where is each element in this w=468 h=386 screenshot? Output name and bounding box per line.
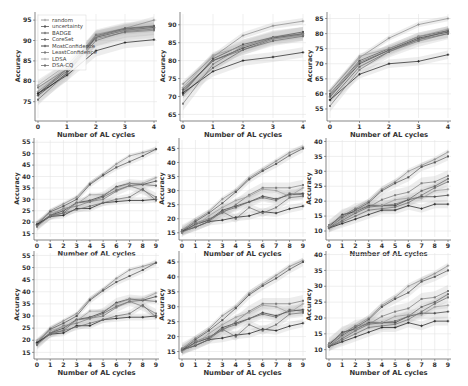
x-tick-label: 3	[220, 361, 224, 368]
y-tick-label: 30	[167, 303, 176, 310]
x-tick-label: 4	[234, 361, 239, 368]
chart-panel-row2-col2: 152025303540450123456789Number of AL cyc…	[158, 138, 307, 258]
x-tick-label: 5	[247, 361, 251, 368]
chart-panel-row3-col2: 152025303540450123456789Number of AL cyc…	[158, 251, 307, 377]
x-tick-label: 0	[181, 123, 186, 130]
y-tick-label: 40	[314, 138, 323, 145]
y-tick-label: 35	[167, 173, 176, 180]
x-axis-label: Number of AL cycles	[350, 131, 428, 139]
y-tick-label: 15	[22, 349, 31, 356]
x-tick-label: 6	[114, 361, 118, 368]
y-axis-label: Accuracy	[306, 49, 314, 82]
y-tick-label: 70	[315, 60, 324, 67]
y-tick-label: 30	[22, 312, 31, 319]
y-tick-label: 25	[314, 298, 323, 305]
x-tick-label: 7	[127, 242, 131, 249]
x-tick-label: 8	[287, 361, 291, 368]
y-tick-label: 40	[167, 273, 176, 280]
x-tick-label: 0	[328, 123, 333, 130]
x-tick-label: 0	[35, 361, 40, 368]
x-tick-label: 1	[340, 361, 344, 368]
y-tick-label: 15	[314, 330, 323, 337]
y-tick-label: 10	[314, 227, 323, 234]
x-tick-label: 4	[152, 123, 157, 130]
x-tick-label: 1	[193, 361, 197, 368]
y-axis-label: Accuracy	[158, 287, 166, 320]
x-tick-label: 2	[207, 242, 211, 249]
x-tick-label: 1	[193, 242, 197, 249]
x-tick-label: 9	[154, 242, 158, 249]
y-tick-label: 20	[167, 215, 176, 222]
y-tick-label: 95	[23, 16, 32, 23]
legend-entry: LeastConfidence	[52, 49, 97, 55]
y-tick-label: 30	[314, 168, 323, 175]
x-tick-label: 9	[301, 361, 305, 368]
y-tick-label: 30	[22, 196, 31, 203]
y-tick-label: 45	[167, 258, 176, 265]
x-tick-label: 3	[123, 123, 127, 130]
x-axis-label: Number of AL cycles	[57, 250, 135, 258]
x-tick-label: 6	[261, 242, 265, 249]
chart-panel-row2-col3: 101520253035400123456789Number of AL cyc…	[305, 138, 452, 258]
y-tick-label: 75	[23, 98, 32, 105]
y-tick-label: 80	[315, 30, 324, 37]
y-tick-label: 45	[167, 145, 176, 152]
y-tick-label: 40	[22, 288, 31, 295]
x-tick-label: 7	[419, 361, 423, 368]
x-tick-label: 5	[101, 242, 105, 249]
y-axis-label: Accuracy	[305, 287, 313, 320]
x-tick-label: 3	[416, 123, 420, 130]
y-tick-label: 85	[23, 57, 32, 64]
x-tick-label: 7	[274, 361, 278, 368]
x-tick-label: 8	[433, 361, 437, 368]
y-tick-label: 65	[168, 111, 177, 118]
legend-entry: LDSA	[52, 56, 67, 62]
x-axis-label: Number of AL cycles	[57, 131, 135, 139]
x-tick-label: 0	[180, 242, 185, 249]
y-tick-label: 20	[167, 333, 176, 340]
x-tick-label: 1	[48, 361, 52, 368]
x-tick-label: 8	[287, 242, 291, 249]
y-tick-label: 80	[23, 77, 32, 84]
x-tick-label: 7	[419, 242, 423, 249]
x-tick-label: 2	[207, 361, 211, 368]
x-tick-label: 0	[36, 123, 41, 130]
x-tick-label: 6	[406, 242, 410, 249]
y-tick-label: 90	[168, 21, 177, 28]
x-tick-label: 1	[340, 242, 344, 249]
x-tick-label: 1	[48, 242, 52, 249]
x-tick-label: 0	[327, 242, 332, 249]
x-axis-label: Number of AL cycles	[203, 250, 281, 258]
y-tick-label: 15	[167, 348, 176, 355]
x-tick-label: 8	[141, 361, 145, 368]
x-tick-label: 0	[180, 361, 185, 368]
y-tick-label: 20	[22, 336, 31, 343]
x-axis-label: Number of AL cycles	[203, 369, 281, 377]
x-tick-label: 1	[65, 123, 69, 130]
y-tick-label: 15	[314, 212, 323, 219]
x-tick-label: 4	[88, 242, 93, 249]
chart-panel-row3-col1: 1520253035404550550123456789Number of AL…	[13, 251, 160, 377]
x-tick-label: 8	[141, 242, 145, 249]
y-tick-label: 25	[22, 324, 31, 331]
x-tick-label: 7	[274, 242, 278, 249]
y-axis-label: Accuracy	[159, 49, 167, 82]
y-tick-label: 55	[22, 252, 31, 259]
y-tick-label: 45	[22, 276, 31, 283]
chart-panel-row3-col3: 101520253035400123456789Number of AL cyc…	[305, 251, 452, 377]
y-tick-label: 20	[314, 197, 323, 204]
y-tick-label: 45	[22, 161, 31, 168]
y-tick-label: 15	[22, 230, 31, 237]
y-tick-label: 40	[22, 173, 31, 180]
x-tick-label: 6	[406, 361, 410, 368]
x-tick-label: 2	[353, 361, 357, 368]
x-axis-label: Number of AL cycles	[204, 131, 282, 139]
y-tick-label: 35	[22, 184, 31, 191]
x-tick-label: 4	[380, 361, 385, 368]
x-tick-label: 3	[75, 242, 79, 249]
y-tick-label: 55	[315, 105, 324, 112]
y-axis-label: Accuracy	[13, 287, 21, 320]
y-tick-label: 15	[167, 229, 176, 236]
x-tick-label: 4	[88, 361, 93, 368]
y-tick-label: 50	[22, 150, 31, 157]
